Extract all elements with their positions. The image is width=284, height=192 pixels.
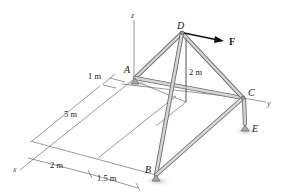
dim-label-1-5m: 1.5 m bbox=[97, 173, 117, 183]
space-truss-figure: z x y bbox=[0, 0, 284, 192]
construction-lines bbox=[30, 38, 243, 175]
truss-diagram-svg: z x y bbox=[0, 0, 284, 192]
point-label-a: A bbox=[123, 64, 131, 75]
x-axis-label: x bbox=[12, 165, 17, 174]
dim-label-5m: 5 m bbox=[64, 109, 77, 119]
dimension-lines bbox=[28, 74, 140, 191]
y-axis-label: y bbox=[266, 99, 271, 108]
force-label: F bbox=[229, 36, 235, 47]
dim-label-2m-width: 2 m bbox=[50, 160, 63, 170]
z-axis-label: z bbox=[130, 11, 135, 20]
dim-label-1m: 1 m bbox=[88, 71, 101, 81]
point-label-b: B bbox=[145, 164, 151, 175]
truss-members bbox=[135, 33, 245, 175]
point-label-d: D bbox=[176, 20, 185, 31]
x-axis bbox=[20, 79, 134, 170]
point-label-e: E bbox=[251, 123, 258, 134]
y-axis bbox=[243, 98, 266, 102]
point-label-c: C bbox=[248, 87, 255, 98]
dim-label-2m-height: 2 m bbox=[189, 67, 202, 77]
